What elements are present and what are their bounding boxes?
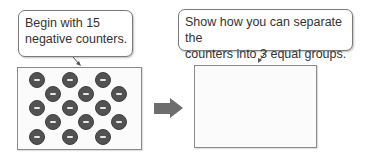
right-pointer-icon: [258, 51, 267, 63]
diagram-overlay: [0, 0, 374, 163]
left-pointer-icon: [73, 57, 81, 66]
right-arrow-icon: [154, 98, 183, 118]
